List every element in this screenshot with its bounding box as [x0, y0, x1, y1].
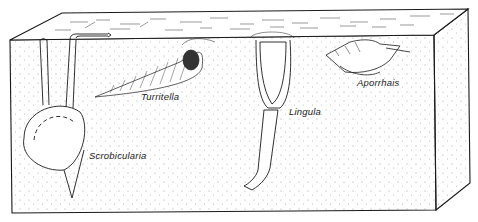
aporrhais-label-text: Aporrhais	[357, 77, 399, 88]
sediment-block-diagram: Scrobicularia Turritella Lingula Aporrha…	[0, 0, 478, 222]
turritella-label-text: Turritella	[141, 91, 179, 102]
scrobicularia-label-text: Scrobicularia	[89, 150, 147, 161]
lingula-label-text: Lingula	[289, 106, 321, 117]
